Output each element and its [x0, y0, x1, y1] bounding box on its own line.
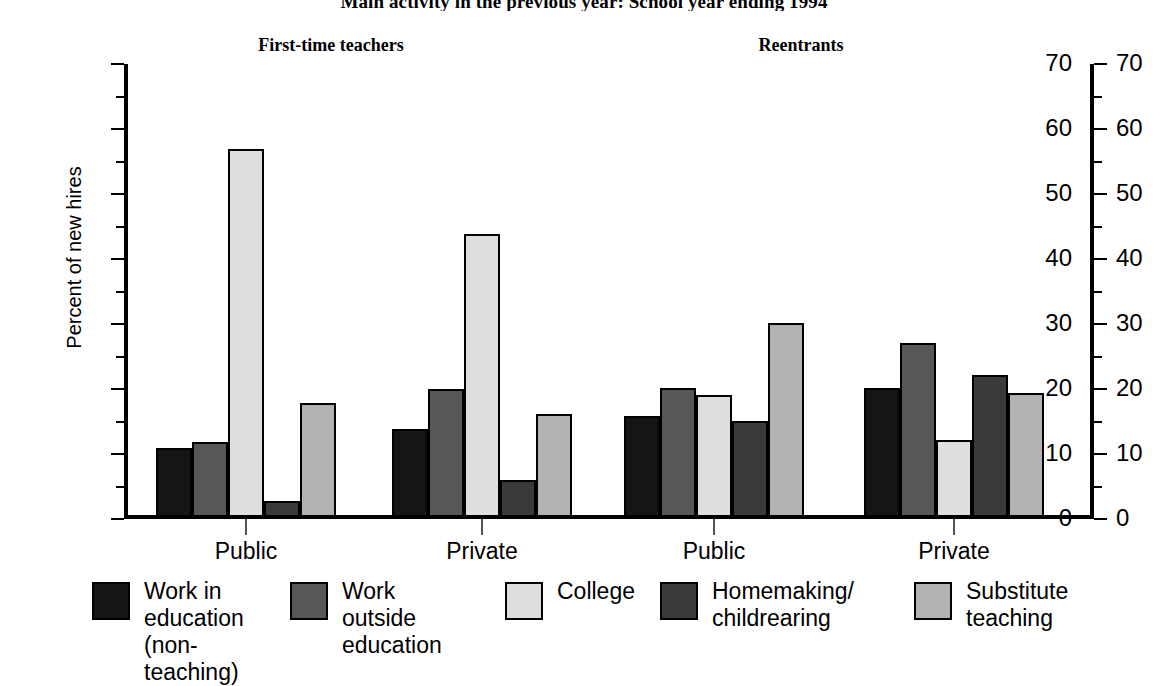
y-tick-right-55 — [1094, 161, 1102, 163]
legend-label-3: Homemaking/ childrearing — [712, 578, 854, 632]
legend-swatch-icon-2 — [505, 582, 543, 620]
panel-title-reentrants: Reentrants — [626, 35, 976, 56]
bar-group-0-series-3 — [264, 501, 300, 517]
legend-label-0: Work in education (non-teaching) — [144, 578, 244, 686]
y-tick-right-30 — [1094, 323, 1107, 325]
y-tick-label-right-10: 10 — [1116, 441, 1168, 465]
legend-swatch-icon-3 — [660, 582, 698, 620]
bar-group-3-series-1 — [900, 343, 936, 517]
bar-group-0-series-2 — [228, 149, 264, 517]
y-axis-left — [124, 64, 128, 519]
y-tick-left-60 — [111, 128, 124, 130]
bar-group-2-series-1 — [660, 388, 696, 517]
panel-title-first-time-teachers: First-time teachers — [156, 35, 506, 56]
plot-area: 010203040506070 010203040506070 PublicPr… — [124, 64, 1094, 519]
y-tick-left-25 — [116, 356, 124, 358]
y-tick-right-50 — [1094, 193, 1107, 195]
bar-group-2-series-2 — [696, 395, 732, 517]
y-tick-left-65 — [116, 96, 124, 98]
y-tick-left-10 — [111, 453, 124, 455]
bar-group-1-series-1 — [428, 389, 464, 517]
legend-label-2: College — [557, 578, 635, 605]
x-tick-3 — [953, 519, 955, 535]
y-tick-label-right-50: 50 — [1116, 181, 1168, 205]
y-tick-label-left-70: 70 — [1012, 51, 1072, 75]
y-tick-right-0 — [1094, 518, 1107, 520]
bar-group-0-series-1 — [192, 442, 228, 517]
y-tick-right-35 — [1094, 291, 1102, 293]
y-tick-right-25 — [1094, 356, 1102, 358]
y-tick-right-5 — [1094, 486, 1102, 488]
y-tick-right-15 — [1094, 421, 1102, 423]
y-tick-right-60 — [1094, 128, 1107, 130]
bar-group-1-series-4 — [536, 414, 572, 517]
x-tick-0 — [245, 519, 247, 535]
bar-group-2-series-4 — [768, 323, 804, 517]
chart-title: Main activity in the previous year: Scho… — [0, 0, 1168, 11]
y-tick-label-right-20: 20 — [1116, 376, 1168, 400]
legend: Work in education (non-teaching)Work out… — [92, 578, 1152, 678]
y-tick-right-10 — [1094, 453, 1107, 455]
y-tick-left-30 — [111, 323, 124, 325]
y-tick-right-20 — [1094, 388, 1107, 390]
y-tick-label-left-60: 60 — [1012, 116, 1072, 140]
x-axis-label-0-public: Public — [166, 538, 326, 565]
y-tick-right-70 — [1094, 63, 1107, 65]
legend-label-4: Substitute teaching — [966, 578, 1068, 632]
bar-group-1-series-2 — [464, 234, 500, 517]
y-axis-title: Percent of new hires — [63, 128, 86, 388]
bar-group-2-series-0 — [624, 416, 660, 517]
y-tick-left-50 — [111, 193, 124, 195]
legend-swatch-icon-0 — [92, 582, 130, 620]
y-tick-left-0 — [111, 518, 124, 520]
bar-group-3-series-4 — [1008, 393, 1044, 517]
y-tick-right-65 — [1094, 96, 1102, 98]
y-tick-right-45 — [1094, 226, 1102, 228]
x-axis-label-1-private: Private — [402, 538, 562, 565]
bar-group-3-series-2 — [936, 440, 972, 517]
y-tick-left-35 — [116, 291, 124, 293]
y-tick-label-left-50: 50 — [1012, 181, 1072, 205]
legend-label-1: Work outside education — [342, 578, 442, 659]
legend-swatch-icon-4 — [914, 582, 952, 620]
y-tick-left-45 — [116, 226, 124, 228]
y-tick-left-70 — [111, 63, 124, 65]
bar-group-0-series-0 — [156, 448, 192, 517]
y-tick-left-20 — [111, 388, 124, 390]
bar-group-2-series-3 — [732, 421, 768, 517]
legend-swatch-icon-1 — [290, 582, 328, 620]
x-tick-2 — [713, 519, 715, 535]
bar-group-3-series-0 — [864, 388, 900, 517]
bar-group-1-series-3 — [500, 480, 536, 517]
y-tick-left-55 — [116, 161, 124, 163]
y-tick-left-15 — [116, 421, 124, 423]
x-axis-label-2-public: Public — [634, 538, 794, 565]
x-axis-label-3-private: Private — [874, 538, 1034, 565]
bar-group-1-series-0 — [392, 429, 428, 517]
y-tick-label-right-70: 70 — [1116, 51, 1168, 75]
y-tick-right-40 — [1094, 258, 1107, 260]
y-tick-left-5 — [116, 486, 124, 488]
y-tick-label-right-0: 0 — [1116, 506, 1168, 530]
y-tick-label-left-40: 40 — [1012, 246, 1072, 270]
y-tick-label-left-30: 30 — [1012, 311, 1072, 335]
x-tick-1 — [481, 519, 483, 535]
y-tick-label-right-30: 30 — [1116, 311, 1168, 335]
bar-group-3-series-3 — [972, 375, 1008, 517]
y-tick-left-40 — [111, 258, 124, 260]
bar-group-0-series-4 — [300, 403, 336, 517]
y-tick-label-right-40: 40 — [1116, 246, 1168, 270]
y-tick-label-right-60: 60 — [1116, 116, 1168, 140]
